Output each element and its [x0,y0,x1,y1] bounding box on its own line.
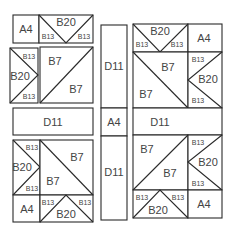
label-b13: B13 [78,33,91,40]
label-b13: B13 [42,199,55,206]
label-b13: B13 [192,97,205,104]
label-a4: A4 [197,32,210,44]
label-b20: B20 [12,161,32,173]
label-b7: B7 [140,143,153,155]
block-top-left: A4 B20 B13 B13 B13 B20 B13 B7 B7 [10,15,93,103]
center-column: D11 A4 D11 [101,25,127,220]
label-b13: B13 [192,56,205,63]
label-a4: A4 [197,198,210,210]
label-b13: B13 [23,93,36,100]
label-b13: B13 [136,194,149,201]
label-b7: B7 [46,175,59,187]
label-b13: B13 [171,41,184,48]
label-b20: B20 [56,16,76,28]
label-b13: B13 [192,139,205,146]
block-bottom-right: B7 B7 B13 B20 B13 B13 B20 B13 A4 [133,135,222,218]
label-d11: D11 [104,60,123,72]
bar-middle-left: D11 [13,108,93,135]
label-b7: B7 [139,88,152,100]
block-bottom-left: B13 B20 B13 B7 B7 A4 B13 B20 B13 [12,140,93,222]
label-b13: B13 [79,199,92,206]
label-b7: B7 [48,55,61,67]
label-b20: B20 [56,208,76,220]
label-d11: D11 [150,116,169,128]
label-b20: B20 [10,70,30,82]
label-b7: B7 [161,61,174,73]
label-d11: D11 [43,116,62,128]
label-d11: D11 [104,166,123,178]
label-b13: B13 [42,33,55,40]
label-b7: B7 [163,167,176,179]
label-a4: A4 [20,203,33,215]
label-b20: B20 [148,204,168,216]
bar-middle-right: D11 [133,108,222,135]
label-b13: B13 [192,180,205,187]
block-top-right: B20 B13 B13 A4 B7 B7 B13 B20 B13 [133,24,222,108]
label-b20: B20 [198,73,218,85]
label-a4: A4 [107,116,120,128]
label-b13: B13 [26,185,39,192]
label-b20: B20 [198,156,218,168]
label-b13: B13 [136,41,149,48]
label-b7: B7 [69,83,82,95]
label-b13: B13 [172,194,185,201]
label-a4: A4 [19,23,32,35]
quilt-layout-diagram: A4 B20 B13 B13 B13 B20 B13 B7 B7 D11 B13… [0,0,226,233]
patch-d11 [133,108,222,135]
label-b20: B20 [150,25,170,37]
patch-d11 [101,136,127,220]
label-b7: B7 [70,151,83,163]
label-b13: B13 [23,53,36,60]
label-b13: B13 [26,144,39,151]
